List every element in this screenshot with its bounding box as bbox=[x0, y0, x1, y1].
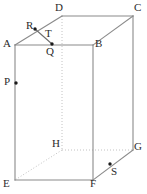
geometry-figure: A B C D E F G H P Q R S T bbox=[0, 0, 147, 194]
prism-svg-canvas bbox=[0, 0, 147, 194]
vertex-label-C: C bbox=[134, 2, 141, 13]
point-label-T: T bbox=[45, 28, 52, 39]
point-marker-R bbox=[33, 27, 36, 30]
point-label-R: R bbox=[26, 20, 33, 31]
point-marker-P bbox=[14, 81, 17, 84]
point-label-S: S bbox=[111, 166, 117, 177]
vertex-label-A: A bbox=[3, 38, 11, 49]
vertex-label-E: E bbox=[3, 178, 10, 189]
point-label-P: P bbox=[4, 76, 10, 87]
vertex-label-B: B bbox=[95, 38, 102, 49]
edge-A-D bbox=[15, 16, 62, 45]
edge-H-E bbox=[15, 150, 62, 180]
vertex-label-G: G bbox=[134, 141, 142, 152]
visible-edges-group bbox=[15, 16, 133, 180]
hidden-edges-group bbox=[15, 16, 133, 180]
vertex-label-H: H bbox=[52, 138, 60, 149]
vertex-label-D: D bbox=[55, 2, 63, 13]
point-label-Q: Q bbox=[46, 46, 54, 57]
vertex-label-F: F bbox=[90, 178, 96, 189]
